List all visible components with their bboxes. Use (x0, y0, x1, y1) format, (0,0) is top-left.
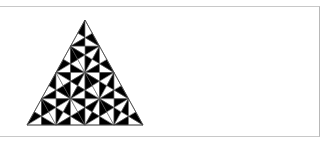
pattern-cells (27, 20, 143, 125)
triangle-pattern-figure (0, 0, 334, 150)
